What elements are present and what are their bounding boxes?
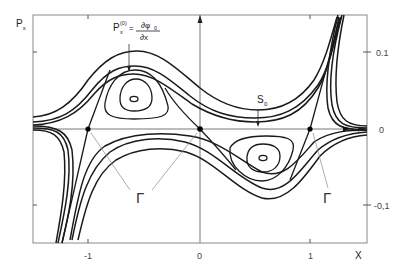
fixed-point-center [197,126,203,132]
y-axis-arrow-icon [198,15,203,23]
svg-text:Γ: Γ [323,189,331,206]
fixed-point-right [307,126,312,131]
svg-text:0: 0 [154,25,157,31]
y-tick-label-0.1: 0.1 [376,48,389,58]
gamma-annotation-right: Γ [313,133,331,206]
svg-text:P: P [113,22,120,33]
y-tick-label-0: 0 [379,125,384,135]
svg-text:x: x [120,29,123,35]
separatrix-curves-lower [70,130,367,240]
left-xpoint-branches [33,70,110,243]
svg-text:0: 0 [264,101,268,107]
svg-text:∂φ: ∂φ [141,21,150,30]
svg-text:∂x: ∂x [140,33,148,42]
x-axis-label: X [355,250,362,261]
svg-text:(0): (0) [120,20,127,26]
svg-text:S: S [257,94,264,105]
y-tick-label-minus0.1: -0,1 [374,201,390,211]
separatrix-curves-upper [33,17,341,125]
svg-text:=: = [129,24,134,33]
phase-space-figure: -1 0 1 X 0.1 0 -0,1 Px [0,0,408,272]
x-tick-label-1: 1 [308,251,313,261]
x-tick-label-minus1: -1 [84,251,92,261]
y-axis-label: Px [16,18,26,31]
fixed-point-left [85,126,90,131]
arrow-down-icon [256,121,260,127]
x-tick-label-0: 0 [197,251,202,261]
momentum-annotation: P x (0) = ∂φ 0 ∂x [113,20,160,72]
gamma-annotation-left: Γ [91,133,197,206]
svg-text:Γ: Γ [136,189,144,206]
